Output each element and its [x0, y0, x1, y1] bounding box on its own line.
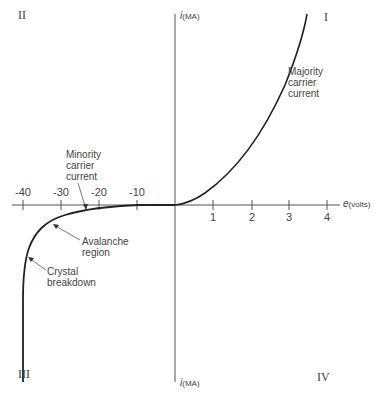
tick-label: 1 [210, 211, 216, 223]
quadrant-3-label: III [18, 367, 30, 382]
tick-label: -40 [15, 186, 31, 198]
tick-label: 4 [324, 211, 330, 223]
quadrant-1-label: I [324, 10, 328, 25]
forward-curve [175, 14, 307, 205]
minority-carrier-annotation: Minority carrier current [66, 149, 101, 182]
quadrant-2-label: II [18, 8, 26, 23]
tick-label: 2 [249, 211, 255, 223]
tick-label: -20 [91, 186, 107, 198]
majority-carrier-annotation: Majority carrier current [288, 66, 323, 99]
avalanche-leader [54, 225, 80, 240]
x-axis-label: e(volts) [343, 198, 370, 209]
tick-label: -10 [129, 186, 145, 198]
quadrant-4-label: IV [317, 370, 330, 385]
tick-label: -30 [53, 186, 69, 198]
y-axis-label-bottom: i(MA) [180, 377, 200, 388]
tick-label: 3 [286, 211, 292, 223]
y-axis-label-top: i(MA) [180, 10, 200, 21]
reverse-curve [23, 205, 175, 382]
iv-curve-diagram [0, 0, 381, 397]
avalanche-region-annotation: Avalanche region [82, 236, 129, 258]
crystal-breakdown-annotation: Crystal breakdown [47, 266, 96, 288]
